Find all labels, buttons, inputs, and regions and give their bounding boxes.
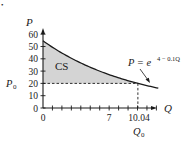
y-tick-label-40: 40 (29, 54, 39, 64)
svg-text:4 − 0.1Q: 4 − 0.1Q (157, 55, 180, 62)
p0-label: P 0 (5, 78, 17, 91)
y-tick-label-0: 0 (33, 104, 38, 114)
x-axis (43, 106, 157, 111)
equation-pointer-arrow-icon (146, 78, 151, 83)
y-axis-label: P (25, 16, 33, 28)
x-tick-label-10-04: 10.04 (128, 113, 150, 123)
y-tick-label-50: 50 (29, 42, 39, 52)
svg-text:P: P (5, 78, 13, 89)
corner-dot: • (1, 1, 4, 9)
svg-text:0: 0 (13, 83, 17, 91)
y-axis-arrow-icon (41, 28, 45, 34)
equation-label: P = e 4 − 0.1Q (127, 55, 180, 68)
svg-text:P = e: P = e (127, 57, 152, 68)
x-axis-label: Q (164, 102, 172, 114)
svg-text:0: 0 (141, 131, 145, 139)
y-tick-label-20: 20 (29, 79, 39, 89)
q0-label: Q 0 (133, 126, 145, 139)
cs-label: CS (55, 60, 68, 72)
y-tick-label-10: 10 (29, 91, 39, 101)
equation-pointer-line (140, 69, 148, 80)
y-tick-label-60: 60 (29, 30, 39, 40)
consumer-surplus-chart: • P Q 0 10 20 30 40 50 60 P 0 0 7 10.04 (0, 0, 183, 144)
svg-text:Q: Q (133, 126, 141, 137)
x-tick-label-0: 0 (41, 113, 46, 123)
y-tick-label-30: 30 (29, 67, 39, 77)
x-tick-label-7: 7 (107, 113, 112, 123)
